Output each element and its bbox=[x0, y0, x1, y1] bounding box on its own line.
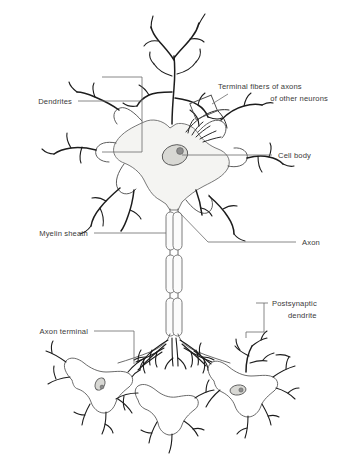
postsynaptic-dendrite-branch-1 bbox=[235, 346, 249, 356]
left-dendrite-upper-a bbox=[93, 83, 95, 97]
terminal-branch-left-3a bbox=[143, 359, 145, 373]
myelin-segment-1b bbox=[173, 212, 182, 250]
nucleolus bbox=[177, 148, 184, 155]
postsynaptic-dendrite-branch-3 bbox=[250, 361, 267, 363]
postsynaptic-left-dend-2 bbox=[48, 377, 70, 384]
postsynaptic-nucleolus-left bbox=[100, 385, 104, 389]
left-dendrite-lower-a bbox=[92, 198, 106, 201]
left-dendrite-mid-c bbox=[80, 147, 82, 163]
postsynaptic-left-dend-3a bbox=[74, 412, 85, 415]
postsynaptic-dendrite-trunk bbox=[246, 346, 252, 372]
axon-with-myelin bbox=[166, 209, 182, 336]
postsynaptic-right-dend-5a bbox=[237, 428, 247, 434]
presynaptic-neuron bbox=[42, 14, 294, 378]
postsynaptic-neuron-center bbox=[116, 380, 214, 453]
cell-body-label: Cell body bbox=[278, 151, 311, 160]
left-dendrite-mid-a bbox=[67, 133, 71, 148]
terminal-branch-left-2 bbox=[142, 344, 166, 366]
right-dendrite-upper bbox=[221, 104, 262, 120]
terminal-fiber-5 bbox=[203, 137, 221, 142]
apical-branch-left-2a bbox=[150, 52, 154, 64]
terminal-fibers-label-line2: of other neurons bbox=[270, 94, 328, 103]
postsynaptic-neuron-left bbox=[46, 341, 145, 434]
label-axon: Axon bbox=[178, 211, 320, 247]
postsynaptic-nucleolus-right bbox=[239, 388, 243, 392]
terminal-branch-center-1a bbox=[165, 358, 173, 369]
postsynaptic-soma-center bbox=[135, 384, 198, 435]
dendrite-tree-apical bbox=[123, 14, 222, 126]
label-terminal-fibers: Terminal fibers of axons of other neuron… bbox=[212, 82, 328, 104]
axon-terminal-label: Axon terminal bbox=[40, 327, 89, 336]
postsynaptic-center-dend-2a bbox=[141, 430, 152, 433]
postsynaptic-label-line2: dendrite bbox=[288, 311, 317, 320]
right-dendrite-mid-b bbox=[283, 164, 294, 166]
postsynaptic-bracket bbox=[246, 303, 264, 338]
apical-branch-right-1 bbox=[174, 23, 199, 58]
left-dendrite-mid bbox=[54, 148, 96, 154]
right-dendrite-lower-a bbox=[223, 206, 237, 209]
postsynaptic-left-dend-4 bbox=[102, 412, 106, 434]
terminal-branch-center-2 bbox=[176, 338, 178, 366]
apical-trunk bbox=[172, 56, 175, 124]
apical-branch-left-2 bbox=[154, 64, 172, 76]
postsynaptic-right-dend-2 bbox=[273, 366, 295, 377]
apical-branch-left-3a bbox=[139, 85, 149, 95]
terminal-fibers-label-line1: Terminal fibers of axons bbox=[218, 82, 302, 91]
myelin-sheath-label: Myelin sheath bbox=[39, 229, 88, 238]
soma-lobe-right bbox=[228, 148, 247, 167]
right-dendrite-mid-c bbox=[258, 156, 262, 172]
postsynaptic-right-dend-6 bbox=[206, 390, 220, 407]
left-dendrite-mid-b bbox=[42, 149, 54, 154]
apical-branch-left-1b bbox=[151, 16, 153, 28]
dendrites-label: Dendrites bbox=[38, 97, 72, 106]
axon-label: Axon bbox=[302, 238, 320, 247]
terminal-branch-center-2a bbox=[178, 358, 186, 369]
left-dendrite-lower2-a bbox=[130, 210, 141, 219]
postsynaptic-center-dend-4a bbox=[206, 380, 209, 392]
postsynaptic-center-dend-3 bbox=[169, 434, 172, 453]
postsynaptic-left-dend-1 bbox=[46, 351, 66, 362]
apical-branch-right-2 bbox=[177, 62, 196, 74]
terminal-branch-right-2 bbox=[182, 344, 206, 366]
postsynaptic-left-dend-6 bbox=[118, 399, 132, 413]
postsynaptic-right-dend-3a bbox=[288, 388, 299, 393]
apical-branch-right-2a bbox=[196, 49, 200, 62]
apical-branch-right-1b bbox=[199, 14, 205, 24]
label-postsynaptic-dendrite: Postsynaptic dendrite bbox=[246, 299, 317, 338]
postsynaptic-center-dend-4 bbox=[195, 390, 214, 398]
terminal-branch-right-3a bbox=[203, 359, 205, 373]
apical-branch-right-3b bbox=[208, 117, 222, 119]
postsynaptic-center-dend-5a bbox=[193, 428, 204, 430]
label-myelin-sheath: Myelin sheath bbox=[39, 229, 166, 238]
postsynaptic-dendrite-target bbox=[235, 331, 290, 372]
apical-branch-left-1 bbox=[151, 27, 174, 60]
postsynaptic-dendrite-branch-2 bbox=[252, 338, 267, 346]
right-dendrite-lower-b bbox=[234, 234, 245, 241]
postsynaptic-dendrite-branch-4 bbox=[276, 355, 290, 357]
terminal-branch-left-2a bbox=[156, 352, 158, 367]
postsynaptic-right-dend-5 bbox=[245, 416, 248, 438]
myelin-segment-3b bbox=[173, 298, 182, 336]
left-dendrite-lower-c bbox=[100, 208, 103, 226]
neuron-illustration: Dendrites Terminal fibers of axons of ot… bbox=[0, 0, 348, 458]
left-dendrite-upper-b bbox=[69, 82, 77, 92]
axon-terminal-leader bbox=[94, 331, 134, 364]
myelin-segment-2b bbox=[173, 255, 182, 293]
postsynaptic-left-dend-4a bbox=[105, 424, 113, 433]
terminal-branch-right-2a bbox=[191, 352, 193, 367]
apical-branch-right-1a bbox=[190, 39, 204, 42]
label-axon-terminal: Axon terminal bbox=[40, 327, 134, 364]
neuron-diagram: Dendrites Terminal fibers of axons of ot… bbox=[0, 0, 348, 458]
apical-branch-left-1a bbox=[144, 41, 158, 46]
left-dendrite-lower bbox=[91, 188, 120, 226]
postsynaptic-dendrite-branch-3a bbox=[263, 353, 274, 360]
postsynaptic-right-dend-4a bbox=[268, 415, 279, 417]
apical-branch-left-3b bbox=[123, 103, 137, 106]
postsynaptic-left-dend-2a bbox=[54, 366, 56, 379]
postsynaptic-label-line1: Postsynaptic bbox=[272, 299, 317, 308]
postsynaptic-right-dend-2a bbox=[286, 357, 289, 369]
terminal-fiber-4 bbox=[200, 131, 216, 139]
postsynaptic-right-dend-4 bbox=[262, 404, 271, 425]
terminal-fibers-leader bbox=[212, 94, 228, 104]
postsynaptic-left-dend-1a bbox=[51, 341, 53, 353]
